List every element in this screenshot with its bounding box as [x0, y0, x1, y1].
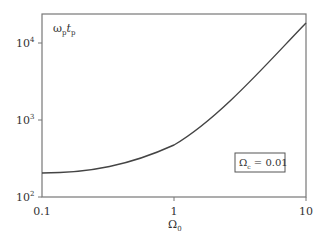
- y-axis-label: ωptp: [53, 22, 76, 37]
- ytick-label-4: 104: [16, 36, 35, 50]
- ytick-label-2: 102: [16, 190, 34, 204]
- xtick-label-0: 0.1: [33, 205, 51, 218]
- xtick-label-2: 10: [299, 205, 313, 218]
- chart: 104 103 102 0.1 1 10 Ω0 ωptp Ωc = 0.01: [0, 0, 327, 237]
- ytick-label-3: 103: [16, 113, 34, 127]
- x-axis-label: Ω0: [168, 218, 182, 233]
- xtick-label-1: 1: [171, 205, 178, 218]
- data-curve: [42, 23, 306, 173]
